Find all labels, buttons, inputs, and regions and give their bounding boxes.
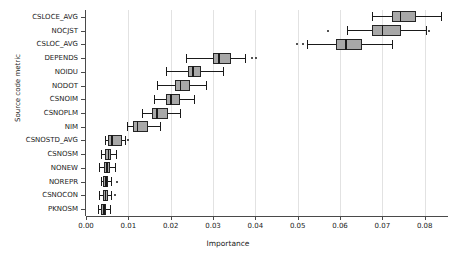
median-line	[382, 25, 384, 36]
whisker-high	[416, 16, 441, 17]
cap-low	[98, 205, 99, 214]
median-line	[218, 53, 220, 64]
median-line	[105, 190, 107, 201]
cap-low	[99, 191, 100, 200]
x-tick-mark	[425, 216, 426, 220]
whisker-high	[148, 126, 159, 127]
x-tick-label: 0.00	[78, 222, 94, 230]
whisker-high	[168, 113, 180, 114]
x-axis-title: Importance	[0, 239, 456, 248]
cap-high	[245, 54, 246, 63]
whisker-high	[231, 58, 245, 59]
y-tick-label-csnoim: CSNOIM	[0, 95, 78, 103]
x-axis-spine	[86, 216, 448, 217]
cap-high	[115, 163, 116, 172]
x-tick-mark	[128, 216, 129, 220]
whisker-low	[307, 44, 337, 45]
whisker-high	[401, 30, 426, 31]
y-tick-label-csnosm: CSNOSM	[0, 150, 78, 158]
cap-low	[99, 163, 100, 172]
plot-area	[86, 10, 448, 216]
x-tick-label: 0.05	[290, 222, 306, 230]
cap-high	[111, 177, 112, 186]
median-line	[170, 94, 172, 105]
x-tick-mark	[171, 216, 172, 220]
whisker-low	[347, 30, 372, 31]
box	[133, 121, 149, 132]
cap-low	[101, 150, 102, 159]
cap-low	[105, 136, 106, 145]
median-line	[103, 204, 105, 215]
cap-high	[392, 40, 393, 49]
x-tick-label: 0.01	[121, 222, 137, 230]
median-line	[400, 11, 402, 22]
y-tick-label-csnoplm: CSNOPLM	[0, 109, 78, 117]
box	[336, 39, 362, 50]
cap-low	[157, 81, 158, 90]
median-line	[345, 39, 347, 50]
y-tick-label-csloce_avg: CSLOCE_AVG	[0, 12, 78, 20]
cap-high	[441, 12, 442, 21]
outlier-point	[255, 57, 257, 59]
median-line	[105, 176, 107, 187]
x-tick-mark	[86, 216, 87, 220]
median-line	[106, 162, 108, 173]
cap-high	[116, 150, 117, 159]
y-tick-label-nonew: NONEW	[0, 163, 78, 171]
whisker-high	[180, 99, 194, 100]
whisker-low	[157, 85, 176, 86]
box	[372, 25, 402, 36]
x-tick-label: 0.07	[375, 222, 391, 230]
median-line	[111, 135, 113, 146]
cap-low	[166, 67, 167, 76]
y-tick-label-norepr: NOREPR	[0, 177, 78, 185]
box	[166, 94, 181, 105]
whisker-low	[154, 99, 166, 100]
cap-high	[223, 67, 224, 76]
y-tick-label-pknosm: PKNOSM	[0, 205, 78, 213]
x-tick-mark	[255, 216, 256, 220]
median-line	[137, 121, 139, 132]
y-tick-label-noidu: NOIDU	[0, 67, 78, 75]
x-tick-mark	[298, 216, 299, 220]
cap-low	[127, 122, 128, 131]
x-tick-label: 0.04	[248, 222, 264, 230]
cap-low	[154, 95, 155, 104]
cap-high	[426, 26, 427, 35]
outlier-point	[428, 30, 430, 32]
whisker-high	[190, 85, 206, 86]
boxplot-chart: Source code metric 0.000.010.020.030.040…	[0, 0, 456, 259]
cap-high	[125, 136, 126, 145]
y-tick-label-depends: DEPENDS	[0, 54, 78, 62]
whisker-low	[166, 71, 188, 72]
x-tick-mark	[213, 216, 214, 220]
cap-low	[307, 40, 308, 49]
x-tick-label: 0.08	[417, 222, 433, 230]
median-line	[192, 66, 194, 77]
cap-high	[206, 81, 207, 90]
cap-high	[110, 205, 111, 214]
x-tick-label: 0.06	[332, 222, 348, 230]
whisker-high	[362, 44, 392, 45]
cap-low	[101, 177, 102, 186]
y-tick-label-csnocon: CSNOCON	[0, 191, 78, 199]
outlier-point	[116, 181, 118, 183]
cap-low	[372, 12, 373, 21]
whisker-low	[186, 58, 213, 59]
cap-high	[194, 95, 195, 104]
median-line	[156, 108, 158, 119]
box	[213, 53, 231, 64]
cap-high	[111, 191, 112, 200]
cap-low	[186, 54, 187, 63]
x-tick-label: 0.03	[205, 222, 221, 230]
whisker-low	[372, 16, 392, 17]
whisker-high	[201, 71, 223, 72]
cap-low	[347, 26, 348, 35]
whisker-low	[142, 113, 152, 114]
box	[392, 11, 416, 22]
box	[152, 108, 168, 119]
cap-high	[180, 109, 181, 118]
median-line	[180, 80, 182, 91]
box	[188, 66, 201, 77]
y-tick-label-nodot: NODOT	[0, 81, 78, 89]
